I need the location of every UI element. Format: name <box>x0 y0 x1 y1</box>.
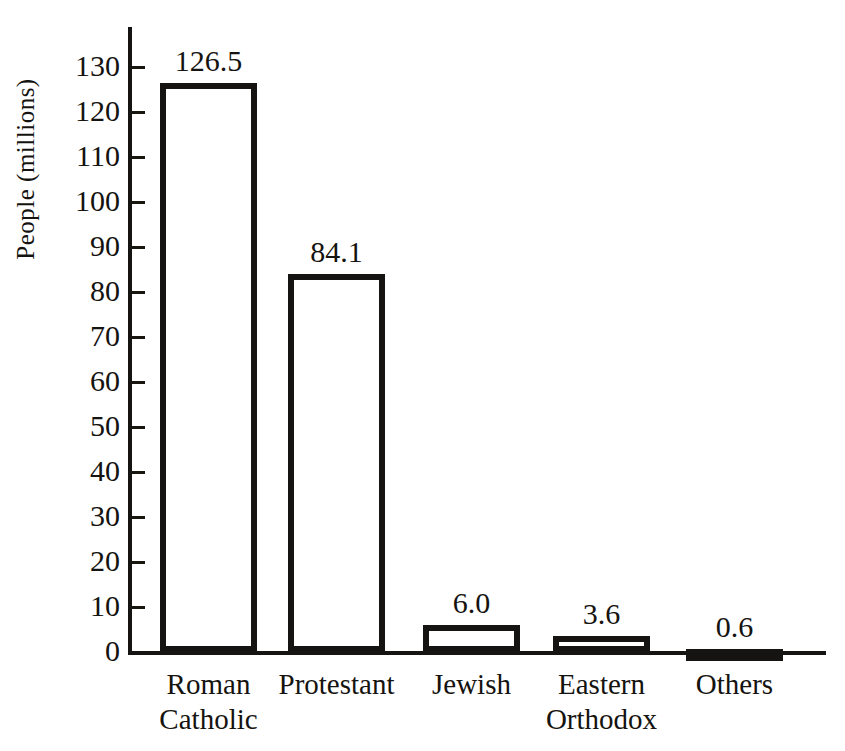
bar-chart: People (millions) 0102030405060708090100… <box>0 0 845 751</box>
y-axis-tick-label-text: 20 <box>52 546 120 576</box>
y-axis-tick <box>132 246 145 249</box>
y-axis-tick-label: 40 <box>48 456 120 486</box>
y-axis-tick-label: 10 <box>48 591 120 621</box>
y-axis-tick <box>132 156 145 159</box>
x-axis-category-label-line: Orthodox <box>505 702 698 737</box>
y-axis-tick <box>132 516 145 519</box>
y-axis-tick <box>132 471 145 474</box>
y-axis-tick-label-text: 110 <box>52 141 120 171</box>
y-axis-tick-label-text: 80 <box>52 276 120 306</box>
y-axis-tick <box>132 426 145 429</box>
y-axis-tick <box>132 381 145 384</box>
bar <box>288 274 385 652</box>
y-axis-tick-label: 70 <box>48 321 120 351</box>
bar <box>686 649 783 661</box>
y-axis-tick-label-text: 120 <box>52 96 120 126</box>
bar-value-label: 0.6 <box>664 611 805 643</box>
y-axis-tick-label: 120 <box>48 96 120 126</box>
y-axis-tick-label-text: 130 <box>52 51 120 81</box>
bar-value-label: 84.1 <box>266 236 407 268</box>
y-axis-tick-label: 80 <box>48 276 120 306</box>
y-axis-tick <box>132 606 145 609</box>
bar <box>553 636 650 652</box>
y-axis-tick-label: 20 <box>48 546 120 576</box>
y-axis-tick-label: 130 <box>48 51 120 81</box>
y-axis-tick-label: 90 <box>48 231 120 261</box>
y-axis-tick-label-text: 60 <box>52 366 120 396</box>
y-axis-tick-label-text: 40 <box>52 456 120 486</box>
y-axis-tick-label-text: 90 <box>52 231 120 261</box>
y-axis-title: People (millions) <box>12 54 46 284</box>
y-axis-tick-label: 30 <box>48 501 120 531</box>
bar-value-label: 6.0 <box>401 587 542 619</box>
y-axis-tick-label: 60 <box>48 366 120 396</box>
y-axis-tick <box>132 111 145 114</box>
y-axis-tick-label-text: 0 <box>52 636 120 666</box>
bar-value-label: 126.5 <box>138 45 279 77</box>
y-axis-tick-label-text: 30 <box>52 501 120 531</box>
y-axis-tick-label-text: 70 <box>52 321 120 351</box>
y-axis-tick-label: 100 <box>48 186 120 216</box>
bar <box>423 625 520 652</box>
y-axis-tick <box>132 336 145 339</box>
x-axis-category-label-line: Catholic <box>112 702 305 737</box>
x-axis-category-label: Others <box>638 667 831 702</box>
y-axis-tick <box>132 561 145 564</box>
bar <box>160 83 257 652</box>
y-axis-tick-label-text: 50 <box>52 411 120 441</box>
y-axis-tick <box>132 201 145 204</box>
bar-value-label: 3.6 <box>531 598 672 630</box>
y-axis-tick-label-text: 10 <box>52 591 120 621</box>
y-axis-tick-label: 110 <box>48 141 120 171</box>
y-axis-tick <box>132 291 145 294</box>
y-axis-tick-label: 50 <box>48 411 120 441</box>
y-axis-tick-label: 0 <box>48 636 120 666</box>
x-axis-category-label-line: Others <box>638 667 831 702</box>
y-axis-tick-label-text: 100 <box>52 186 120 216</box>
